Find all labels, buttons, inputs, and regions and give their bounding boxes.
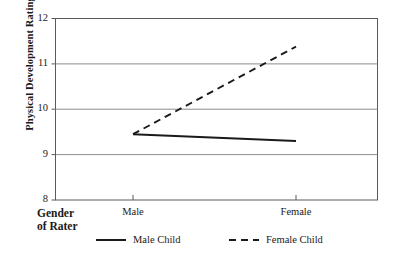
legend-label-male-child: Male Child [133,234,181,245]
x-axis-title: Gender of Rater [37,207,78,232]
y-tick-label-9: 9 [26,148,48,159]
chart-legend: Male Child Female Child [96,231,386,249]
chart-figure: Physical Development Rating 12 11 10 9 8… [0,0,393,253]
x-tick-label-female: Female [251,206,341,217]
y-tick-label-12: 12 [26,12,48,23]
y-tick-label-10: 10 [26,102,48,113]
legend-entry-female-child: Female Child [229,231,323,247]
legend-swatch-solid-line-icon [96,235,126,244]
legend-entry-male-child: Male Child [96,231,181,247]
y-axis-title: Physical Development Rating [24,0,35,159]
x-axis-title-line1: Gender [37,207,78,220]
legend-label-female-child: Female Child [266,234,323,245]
y-tick-label-8: 8 [26,193,48,204]
x-tick-label-male: Male [88,206,178,217]
legend-swatch-dashed-line-icon [229,235,259,244]
x-axis-title-line2: of Rater [37,220,78,233]
y-tick-label-11: 11 [26,57,48,68]
